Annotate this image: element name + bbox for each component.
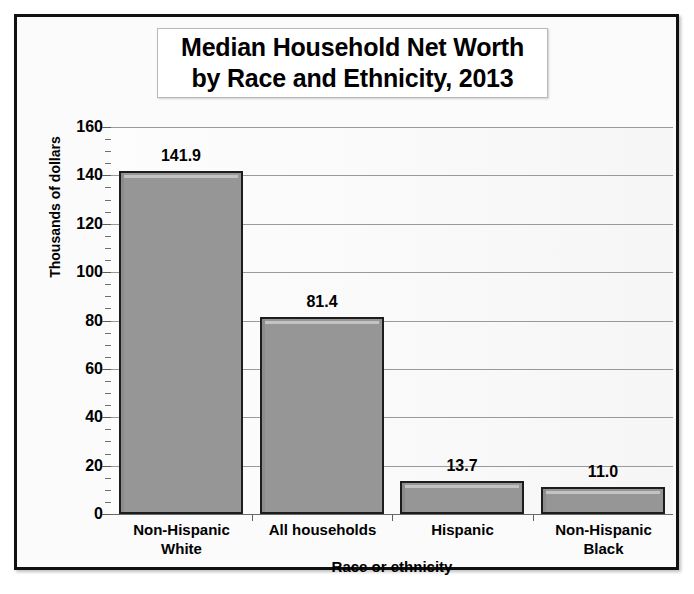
x-axis-tick-label: Non-HispanicBlack [533,520,674,558]
bar-shade [121,173,124,512]
gridline [111,127,673,128]
y-axis-tick-labels: 020406080100120140160 [49,127,103,515]
bar-highlight [546,491,660,494]
y-axis-tick-label: 160 [57,119,103,135]
y-axis-tick-label: 100 [57,264,103,280]
x-axis-tick-label-line: Non-Hispanic [111,520,252,539]
x-axis-tick-label-line: Black [533,539,674,558]
x-axis-tick-label-line: White [111,539,252,558]
x-axis-tick-label-line: Hispanic [392,520,533,539]
bar-shade [543,489,546,512]
y-axis-tick-label: 140 [57,167,103,183]
y-axis-tick-label: 20 [57,458,103,474]
bar [260,317,384,514]
chart-figure: Median Household Net Worth by Race and E… [14,14,679,570]
chart-title: Median Household Net Worth by Race and E… [157,28,548,98]
bar-highlight [265,321,379,324]
bar [119,171,243,514]
y-axis-tick-label: 120 [57,216,103,232]
bar [541,487,665,514]
x-axis-title: Race or ethnicity [111,558,673,575]
x-axis-tick-label: Hispanic [392,520,533,539]
chart-title-line-1: Median Household Net Worth [181,32,524,63]
x-axis-tick-label: All households [252,520,393,539]
y-axis-tick-label: 60 [57,361,103,377]
y-axis-tick-label: 0 [57,506,103,522]
bar [400,481,524,514]
y-axis-tick-label: 80 [57,313,103,329]
x-axis-tick-label-line: All households [252,520,393,539]
x-axis-tick-label-line: Non-Hispanic [533,520,674,539]
y-axis-tick-label: 40 [57,409,103,425]
plot-area [111,127,673,514]
chart-title-line-2: by Race and Ethnicity, 2013 [191,63,513,94]
bar-highlight [124,175,238,178]
bar-highlight [405,485,519,488]
x-axis-tick-label: Non-HispanicWhite [111,520,252,558]
bar-shade [262,319,265,512]
bar-shade [402,483,405,512]
